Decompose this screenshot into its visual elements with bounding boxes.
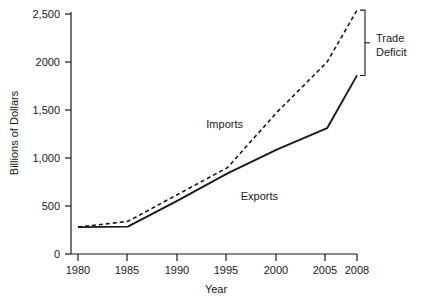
y-tick-label-0: 0: [54, 248, 60, 260]
chart-svg: 0 500 1,000 1,500 2000 2,500 Billions of…: [0, 0, 424, 301]
trade-deficit-label-line1: Trade: [376, 32, 404, 44]
x-tick-label-1990: 1990: [165, 264, 189, 276]
trade-chart: 0 500 1,000 1,500 2000 2,500 Billions of…: [0, 0, 424, 301]
y-tick-label-1000: 1,000: [32, 152, 60, 164]
x-tick-label-2008: 2008: [345, 264, 369, 276]
series-callout-exports: Exports: [241, 190, 279, 202]
x-axis-ticks: [78, 254, 357, 261]
x-tick-label-2000: 2000: [264, 264, 288, 276]
series-callout-imports: Imports: [206, 118, 243, 130]
y-axis-title: Billions of Dollars: [8, 90, 20, 175]
series-line-exports: [78, 75, 357, 227]
x-tick-label-1985: 1985: [115, 264, 139, 276]
x-tick-label-1995: 1995: [214, 264, 238, 276]
y-tick-label-500: 500: [42, 200, 60, 212]
x-axis-title: Year: [205, 283, 228, 295]
y-tick-label-2500: 2,500: [32, 8, 60, 20]
y-axis-ticks: [65, 14, 71, 254]
trade-deficit-label-line2: Deficit: [376, 46, 407, 58]
y-tick-label-2000: 2000: [36, 56, 60, 68]
x-tick-label-2005: 2005: [313, 264, 337, 276]
x-tick-label-1980: 1980: [66, 264, 90, 276]
y-tick-label-1500: 1,500: [32, 104, 60, 116]
trade-deficit-bracket: [360, 10, 365, 75]
